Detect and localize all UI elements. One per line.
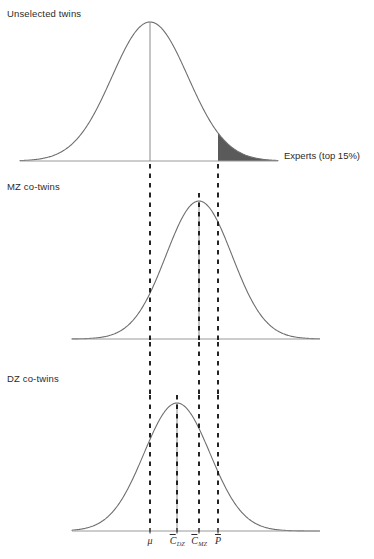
- tick-label-c-mz-subscript: MZ: [198, 540, 207, 547]
- reference-lines-group: [150, 164, 218, 535]
- tick-label-c-mz-base: C: [191, 535, 198, 546]
- tick-label-c-dz-subscript: DZ: [177, 540, 185, 547]
- tick-label-c-mz: CMZ: [191, 535, 206, 546]
- tick-label-mu: μ: [147, 535, 152, 546]
- twin-distributions-figure: Unselected twins MZ co-twins DZ co-twins…: [0, 0, 374, 559]
- panel-label-mz-co-twins: MZ co-twins: [7, 181, 60, 192]
- dz-co-twins-curve: [72, 403, 320, 531]
- tick-label-p-bar: P: [215, 535, 221, 546]
- tick-label-c-dz-base: C: [170, 535, 177, 546]
- panel-mz-co-twins: [72, 201, 320, 339]
- panel-label-unselected-twins: Unselected twins: [7, 8, 81, 19]
- mz-co-twins-curve: [72, 201, 320, 339]
- experts-top-15-percent-label: Experts (top 15%): [284, 150, 360, 161]
- unselected-twins-curve: [20, 22, 278, 161]
- unselected-twins-shaded-tail: [20, 22, 278, 161]
- panel-unselected-twins: [20, 22, 278, 161]
- figure-canvas: [0, 0, 374, 559]
- tick-label-p-bar-base: P: [215, 535, 221, 546]
- panel-label-dz-co-twins: DZ co-twins: [7, 373, 59, 384]
- tick-label-c-dz: CDZ: [170, 535, 185, 546]
- panel-dz-co-twins: [72, 403, 320, 531]
